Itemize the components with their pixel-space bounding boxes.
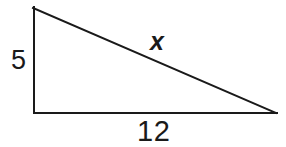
hypotenuse-length-label: x (150, 29, 164, 54)
base-length-label: 12 (137, 117, 170, 146)
right-triangle-diagram: 5 x 12 (0, 0, 286, 147)
vertical-leg-length-label: 5 (11, 47, 26, 74)
triangle-hypotenuse (33, 8, 276, 113)
